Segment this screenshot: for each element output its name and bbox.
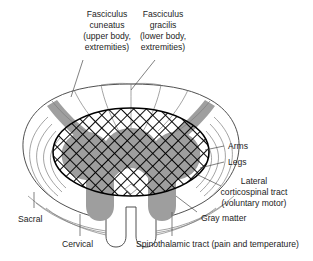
white-matter-hatch-region bbox=[53, 108, 209, 196]
fasciculus-gracilis-line3: (lower body, bbox=[140, 31, 186, 41]
fasciculus-cuneatus-line4: extremities) bbox=[85, 42, 130, 52]
fasciculus-cuneatus-line2: cuneatus bbox=[90, 20, 125, 30]
label-sacral: Sacral bbox=[18, 214, 42, 224]
lateral-corticospinal-line3: (voluntary motor) bbox=[222, 198, 287, 208]
label-fasciculus-cuneatus: Fasciculus cuneatus (upper body, extremi… bbox=[83, 9, 131, 52]
label-legs: Legs bbox=[228, 157, 247, 167]
lateral-corticospinal-line2: corticospinal tract bbox=[221, 187, 288, 197]
label-lateral-corticospinal-tract: Lateral corticospinal tract (voluntary m… bbox=[221, 176, 288, 208]
lateral-corticospinal-line1: Lateral bbox=[241, 176, 267, 186]
fasciculus-gracilis-line1: Fasciculus bbox=[143, 9, 184, 19]
fasciculus-gracilis-line2: gracilis bbox=[150, 20, 177, 30]
label-fasciculus-gracilis: Fasciculus gracilis (lower body, extremi… bbox=[140, 9, 186, 52]
label-arms: Arms bbox=[228, 141, 248, 151]
fasciculus-cuneatus-line3: (upper body, bbox=[83, 31, 131, 41]
label-cervical: Cervical bbox=[62, 239, 93, 249]
fasciculus-cuneatus-line1: Fasciculus bbox=[87, 9, 128, 19]
fasciculus-gracilis-line4: extremities) bbox=[141, 42, 186, 52]
label-spinothalamic-tract: Spinothalamic tract (pain and temperatur… bbox=[136, 239, 299, 249]
label-gray-matter: Gray matter bbox=[201, 213, 247, 223]
spinal-cord-figure: Fasciculus cuneatus (upper body, extremi… bbox=[0, 0, 313, 261]
